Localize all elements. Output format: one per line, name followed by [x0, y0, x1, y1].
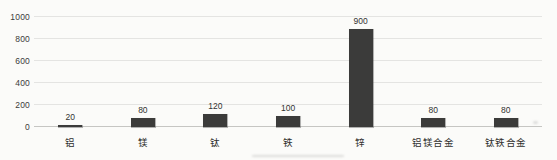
y-tick-label-800: 800 — [4, 34, 30, 44]
bar — [421, 118, 445, 127]
bar-chart: 02004006008001000 20铝80镁120钛100铁900锌80铝镁… — [0, 0, 557, 160]
category-label: 钛铁合金 — [485, 135, 527, 149]
bar-value-label: 80 — [501, 106, 510, 115]
category-label: 锌 — [355, 135, 366, 149]
y-tick-label-600: 600 — [4, 56, 30, 66]
bar — [349, 29, 373, 127]
bar-slot: 80镁 — [107, 17, 180, 127]
bar-slot: 80钛铁合金 — [469, 17, 542, 127]
y-tick-label-0: 0 — [4, 122, 30, 132]
y-tick-label-400: 400 — [4, 78, 30, 88]
bar-value-label: 20 — [66, 113, 75, 122]
y-axis: 02004006008001000 — [2, 17, 30, 127]
bar-slot: 100铁 — [252, 17, 325, 127]
bar-slot: 900锌 — [324, 17, 397, 127]
bar-slot: 120钛 — [179, 17, 252, 127]
bar-value-label: 900 — [354, 17, 368, 26]
category-label: 铝镁合金 — [412, 135, 454, 149]
category-label: 镁 — [138, 135, 149, 149]
bar — [203, 114, 227, 127]
bar-value-label: 80 — [138, 106, 147, 115]
scan-speck — [533, 121, 538, 124]
bar-slot: 20铝 — [34, 17, 107, 127]
category-label: 钛 — [210, 135, 221, 149]
category-label: 铝 — [65, 135, 76, 149]
bar-slot: 80铝镁合金 — [397, 17, 470, 127]
bar — [58, 125, 82, 127]
scan-smudge — [252, 155, 344, 157]
bar — [494, 118, 518, 127]
y-tick-label-200: 200 — [4, 100, 30, 110]
bar — [276, 116, 300, 127]
bar — [131, 118, 155, 127]
bar-value-label: 100 — [281, 104, 295, 113]
y-tick-label-1000: 1000 — [4, 12, 30, 22]
category-label: 铁 — [283, 135, 294, 149]
plot-area: 20铝80镁120钛100铁900锌80铝镁合金80钛铁合金 — [34, 17, 542, 127]
bar-series: 20铝80镁120钛100铁900锌80铝镁合金80钛铁合金 — [34, 17, 542, 127]
bar-value-label: 120 — [208, 102, 222, 111]
bar-value-label: 80 — [428, 106, 437, 115]
